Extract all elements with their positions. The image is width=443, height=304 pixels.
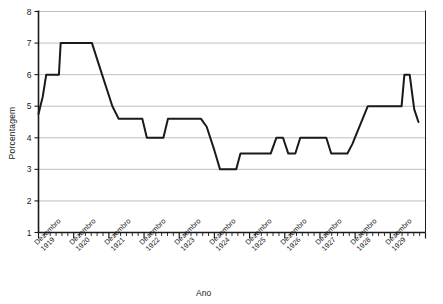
x-axis-title: Ano — [196, 288, 211, 298]
y-tick-label: 7 — [12, 38, 32, 48]
line-chart-plot — [0, 0, 443, 304]
chart-container: Porcentagem Ano 12345678 Dezembro1919Dez… — [0, 0, 443, 304]
y-tick-label: 1 — [12, 228, 32, 238]
y-tick-label: 5 — [12, 101, 32, 111]
y-tick-label: 8 — [12, 7, 32, 17]
y-tick-label: 2 — [12, 196, 32, 206]
y-tick-label: 4 — [12, 133, 32, 143]
y-tick-label: 6 — [12, 70, 32, 80]
y-tick-label: 3 — [12, 164, 32, 174]
